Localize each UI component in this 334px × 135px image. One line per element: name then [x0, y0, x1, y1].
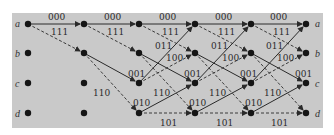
label-101: 101: [160, 118, 177, 128]
node-d: [248, 110, 254, 116]
node-b: [25, 50, 31, 56]
node-a: [192, 21, 198, 27]
label-000: 000: [215, 12, 232, 22]
trellis-diagram: a b c d a b c d: [0, 0, 334, 135]
node-b: [192, 50, 198, 56]
label-111: 111: [51, 27, 68, 37]
node-a: [25, 21, 31, 27]
node-c: [136, 80, 142, 86]
label-000: 000: [104, 12, 121, 22]
label-100: 100: [277, 53, 294, 63]
node-c: [303, 80, 309, 86]
label-110: 110: [209, 88, 226, 98]
state-label-c-right: c: [315, 78, 320, 89]
node-a: [303, 21, 309, 27]
state-label-c-left: c: [15, 78, 20, 89]
label-100: 100: [222, 53, 239, 63]
node-b: [81, 50, 87, 56]
node-c: [81, 80, 87, 86]
node-a: [81, 21, 87, 27]
label-001: 001: [128, 69, 145, 79]
node-d: [81, 110, 87, 116]
node-a: [248, 21, 254, 27]
label-111: 111: [162, 27, 179, 37]
label-001: 001: [295, 69, 312, 79]
label-001: 001: [240, 69, 257, 79]
label-000: 000: [48, 12, 65, 22]
label-101: 101: [216, 118, 233, 128]
label-011: 011: [155, 41, 172, 51]
label-111: 111: [218, 27, 235, 37]
label-010: 010: [189, 98, 206, 108]
state-label-b-right: b: [315, 48, 320, 59]
label-011: 011: [211, 41, 228, 51]
node-d: [303, 110, 309, 116]
state-label-a-left: a: [15, 18, 20, 29]
label-101: 101: [271, 118, 288, 128]
node-d: [25, 110, 31, 116]
node-b: [248, 50, 254, 56]
label-011: 011: [266, 41, 283, 51]
node-a: [136, 21, 142, 27]
node-c: [192, 80, 198, 86]
label-010: 010: [133, 98, 150, 108]
label-110: 110: [264, 88, 281, 98]
label-110: 110: [153, 88, 170, 98]
label-010: 010: [245, 98, 262, 108]
node-c: [25, 80, 31, 86]
state-label-b-left: b: [15, 48, 20, 59]
node-b: [303, 50, 309, 56]
node-d: [136, 110, 142, 116]
node-c: [248, 80, 254, 86]
label-111: 111: [107, 27, 124, 37]
node-d: [192, 110, 198, 116]
node-b: [136, 50, 142, 56]
label-000: 000: [270, 12, 287, 22]
label-110: 110: [93, 88, 110, 98]
label-111: 111: [273, 27, 290, 37]
state-label-a-right: a: [315, 18, 320, 29]
label-001: 001: [184, 69, 201, 79]
label-100: 100: [166, 53, 183, 63]
label-000: 000: [159, 12, 176, 22]
